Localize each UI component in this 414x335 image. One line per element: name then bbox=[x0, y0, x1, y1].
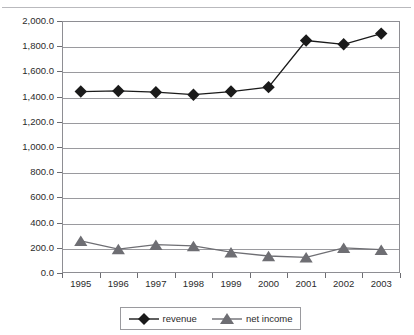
x-axis-tick-label: 2002 bbox=[324, 278, 364, 289]
y-axis-tick-label: 600.0 bbox=[30, 191, 54, 202]
y-axis-tick-label: 1,400.0 bbox=[22, 91, 54, 102]
legend-item-revenue[interactable]: revenue bbox=[129, 312, 197, 326]
x-axis-tick-mark bbox=[100, 273, 101, 278]
y-axis-tick-mark bbox=[57, 46, 62, 47]
y-axis-tick-mark bbox=[57, 172, 62, 173]
x-axis-tick-mark bbox=[400, 273, 401, 278]
y-axis-tick-mark bbox=[57, 122, 62, 123]
legend-item-net-income[interactable]: net income bbox=[212, 312, 292, 326]
x-axis-tick-label: 2001 bbox=[286, 278, 326, 289]
gridline bbox=[63, 198, 399, 199]
y-axis-tick-mark bbox=[57, 97, 62, 98]
header-divider bbox=[2, 7, 411, 8]
y-axis-tick-label: 1,800.0 bbox=[22, 40, 54, 51]
y-axis-tick-mark bbox=[57, 147, 62, 148]
plot-area bbox=[62, 21, 400, 273]
y-axis-tick-mark bbox=[57, 223, 62, 224]
y-axis-tick-label: 2,000.0 bbox=[22, 15, 54, 26]
x-axis-tick-mark bbox=[250, 273, 251, 278]
x-axis-tick-label: 2000 bbox=[249, 278, 289, 289]
y-axis-tick-label: 800.0 bbox=[30, 166, 54, 177]
x-axis-tick-label: 1996 bbox=[98, 278, 138, 289]
gridline bbox=[63, 72, 399, 73]
x-axis-tick-label: 1995 bbox=[61, 278, 101, 289]
gridline bbox=[63, 249, 399, 250]
x-axis-tick-mark bbox=[137, 273, 138, 278]
gridline bbox=[63, 148, 399, 149]
diamond-marker-icon bbox=[129, 312, 159, 326]
legend-label-revenue: revenue bbox=[163, 313, 197, 324]
y-axis-tick-label: 400.0 bbox=[30, 217, 54, 228]
x-axis-tick-mark bbox=[62, 273, 63, 278]
x-axis-tick-mark bbox=[325, 273, 326, 278]
chart-container: 0.0200.0400.0600.0800.01,000.01,200.01,4… bbox=[0, 0, 414, 335]
gridline bbox=[63, 224, 399, 225]
y-axis-tick-label: 1,600.0 bbox=[22, 65, 54, 76]
chart-title-clipped bbox=[0, 0, 414, 7]
x-axis-tick-mark bbox=[175, 273, 176, 278]
y-axis-tick-label: 0.0 bbox=[41, 267, 54, 278]
gridline bbox=[63, 98, 399, 99]
x-axis-tick-mark bbox=[287, 273, 288, 278]
y-axis-tick-mark bbox=[57, 21, 62, 22]
gridline bbox=[63, 123, 399, 124]
chart-legend: revenue net income bbox=[120, 307, 301, 330]
y-axis-tick-label: 1,200.0 bbox=[22, 116, 54, 127]
gridline bbox=[63, 173, 399, 174]
x-axis-tick-label: 1998 bbox=[173, 278, 213, 289]
triangle-marker-icon bbox=[212, 312, 242, 326]
x-axis-tick-label: 1999 bbox=[211, 278, 251, 289]
y-axis-tick-mark bbox=[57, 71, 62, 72]
x-axis-tick-mark bbox=[212, 273, 213, 278]
x-axis-tick-label: 2003 bbox=[361, 278, 401, 289]
y-axis-tick-label: 200.0 bbox=[30, 242, 54, 253]
legend-label-net-income: net income bbox=[246, 313, 292, 324]
x-axis-tick-mark bbox=[362, 273, 363, 278]
y-axis-tick-label: 1,000.0 bbox=[22, 141, 54, 152]
x-axis-tick-label: 1997 bbox=[136, 278, 176, 289]
y-axis-tick-mark bbox=[57, 197, 62, 198]
gridline bbox=[63, 47, 399, 48]
y-axis-tick-mark bbox=[57, 248, 62, 249]
